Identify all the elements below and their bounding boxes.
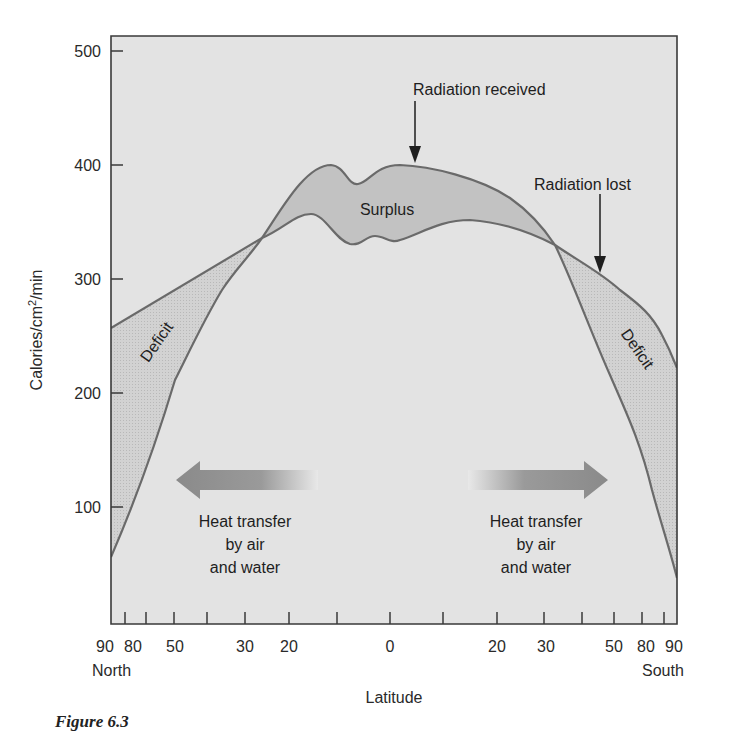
x-tick-label: 20 bbox=[488, 638, 506, 655]
radiation-received-label: Radiation received bbox=[413, 81, 546, 98]
x-tick-label: 0 bbox=[386, 638, 395, 655]
heat-transfer-text-right: by air bbox=[516, 536, 556, 553]
north-label: North bbox=[92, 662, 131, 679]
surplus-label: Surplus bbox=[360, 201, 414, 218]
y-tick-label: 500 bbox=[74, 43, 101, 60]
y-tick-label: 100 bbox=[74, 499, 101, 516]
x-tick-label: 90 bbox=[665, 638, 683, 655]
x-tick-label: 30 bbox=[236, 638, 254, 655]
south-label: South bbox=[642, 662, 684, 679]
heat-transfer-text-left: and water bbox=[210, 559, 281, 576]
heat-transfer-text-left: by air bbox=[225, 536, 265, 553]
x-tick-label: 20 bbox=[280, 638, 298, 655]
heat-transfer-text-left: Heat transfer bbox=[199, 513, 292, 530]
heat-transfer-text-right: and water bbox=[501, 559, 572, 576]
x-tick-label: 50 bbox=[605, 638, 623, 655]
x-tick-label: 50 bbox=[166, 638, 184, 655]
x-tick-label: 80 bbox=[637, 638, 655, 655]
y-tick-label: 400 bbox=[74, 157, 101, 174]
heat-transfer-text-right: Heat transfer bbox=[490, 513, 583, 530]
radiation-lost-label: Radiation lost bbox=[534, 176, 632, 193]
radiation-balance-chart: 500 400 300 200 100 90 80 50 30 20 0 20 … bbox=[0, 0, 731, 733]
x-axis-title: Latitude bbox=[366, 689, 423, 706]
x-tick-label: 80 bbox=[124, 638, 142, 655]
x-tick-label: 30 bbox=[537, 638, 555, 655]
y-axis-title: Calories/cm2/min bbox=[26, 270, 45, 391]
x-tick-label: 90 bbox=[96, 638, 114, 655]
y-tick-label: 200 bbox=[74, 385, 101, 402]
figure-caption: Figure 6.3 bbox=[55, 712, 129, 732]
y-tick-label: 300 bbox=[74, 271, 101, 288]
